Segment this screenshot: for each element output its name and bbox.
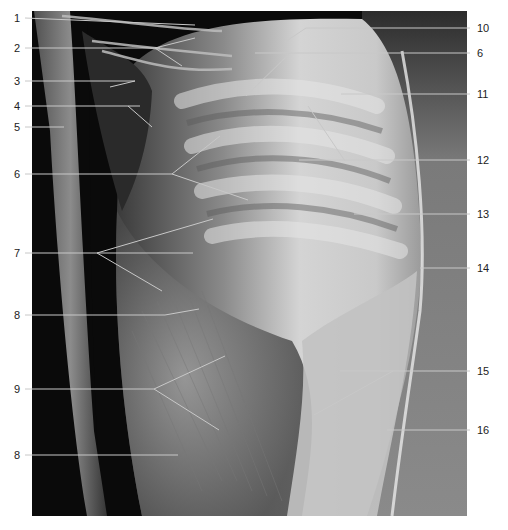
label-4: 4 xyxy=(0,100,20,112)
label-7: 7 xyxy=(0,247,20,259)
label-16: 16 xyxy=(477,424,489,436)
label-15: 15 xyxy=(477,365,489,377)
label-8a: 8 xyxy=(0,309,20,321)
label-5: 5 xyxy=(0,121,20,133)
anatomy-figure: 1234567898106111213141516 xyxy=(0,0,508,530)
label-10: 10 xyxy=(477,22,489,34)
label-6r: 6 xyxy=(477,47,483,59)
label-9: 9 xyxy=(0,383,20,395)
label-12: 12 xyxy=(477,154,489,166)
dissection-photo xyxy=(32,11,467,516)
label-8b: 8 xyxy=(0,449,20,461)
label-1: 1 xyxy=(0,12,20,24)
label-14: 14 xyxy=(477,262,489,274)
label-2: 2 xyxy=(0,42,20,54)
photo-rendering xyxy=(32,11,467,516)
label-6: 6 xyxy=(0,168,20,180)
label-13: 13 xyxy=(477,208,489,220)
label-3: 3 xyxy=(0,75,20,87)
label-11: 11 xyxy=(477,88,488,100)
